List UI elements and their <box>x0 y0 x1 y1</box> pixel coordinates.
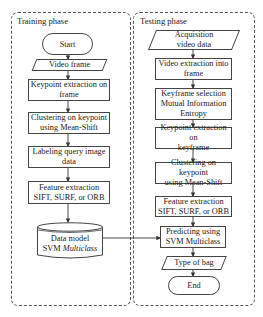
feature-extraction-train-label: Feature extractionSIFT, SURF, or ORB <box>34 183 105 203</box>
feature-extraction-train-process: Feature extractionSIFT, SURF, or ORB <box>28 181 110 204</box>
keyframe-selection-label: Keyframe selectionMutual InformationEntr… <box>161 89 227 119</box>
type-of-bag-output: Type of bag <box>164 256 224 270</box>
start-terminal: Start <box>42 33 93 55</box>
feature-extraction-test-process: Feature extractionSIFT, SURF, or ORB <box>155 196 232 217</box>
labeling-query-label: Labeling query imagedata <box>33 147 106 167</box>
video-frame-input: Video frame <box>34 59 105 71</box>
clustering-train-label: Clustering on keypointusing Mean-Shift <box>31 113 107 133</box>
predicting-svm-process: Predicting usingSVM Multiclass <box>160 226 226 248</box>
type-of-bag-label: Type of bag <box>174 258 214 268</box>
acquisition-video-label: Acquisitionvideo data <box>175 30 214 50</box>
clustering-train-process: Clustering on keypointusing Mean-Shift <box>28 112 110 134</box>
acquisition-video-input: Acquisitionvideo data <box>152 30 236 50</box>
labeling-query-process: Labeling query imagedata <box>28 146 110 168</box>
keypoint-extraction-frame-label: Keypoint extraction onframe <box>31 80 108 100</box>
keyframe-selection-process: Keyframe selectionMutual InformationEntr… <box>155 88 232 120</box>
start-label: Start <box>60 40 76 49</box>
video-extraction-label: Video extraction intoframe <box>158 59 228 79</box>
data-model-database: Data model SVM Multiclass <box>37 222 103 260</box>
keypoint-extraction-keyframe-label: Keypoint extraction onkeyframe <box>156 123 231 153</box>
feature-extraction-test-label: Feature extractionSIFT, SURF, or ORB <box>158 197 229 217</box>
predicting-svm-label: Predicting usingSVM Multiclass <box>166 227 221 247</box>
video-extraction-process: Video extraction intoframe <box>155 58 232 80</box>
end-label: End <box>187 281 200 290</box>
video-frame-label: Video frame <box>49 60 90 70</box>
keypoint-extraction-frame-process: Keypoint extraction onframe <box>28 79 110 101</box>
clustering-test-label: Clustering on keypointusing Mean-Shift <box>156 158 231 188</box>
clustering-test-process: Clustering on keypointusing Mean-Shift <box>155 162 232 184</box>
keypoint-extraction-keyframe-process: Keypoint extraction onkeyframe <box>155 127 232 149</box>
end-terminal: End <box>168 276 220 295</box>
data-model-label: Data model SVM Multiclass <box>37 234 103 254</box>
